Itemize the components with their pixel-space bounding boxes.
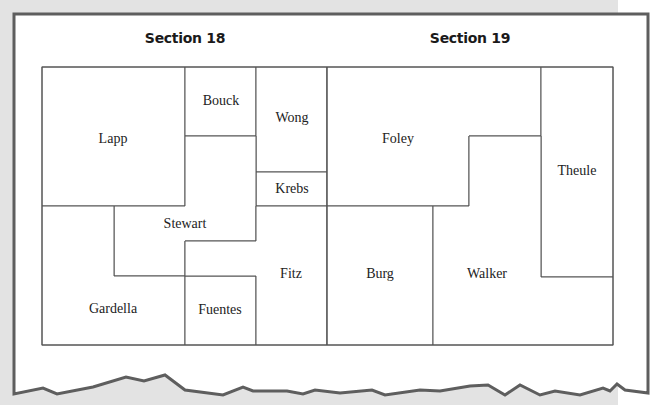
parcel-label-stewart: Stewart xyxy=(164,216,207,232)
parcel-label-foley: Foley xyxy=(382,131,414,147)
parcel-label-theule: Theule xyxy=(558,163,597,179)
parcel-label-wong: Wong xyxy=(275,110,308,126)
parcel-label-bouck: Bouck xyxy=(203,93,240,109)
parcel-label-burg: Burg xyxy=(366,266,394,282)
parcel-label-lapp: Lapp xyxy=(99,131,128,147)
parcel-label-walker: Walker xyxy=(467,266,507,282)
section-18-title: Section 18 xyxy=(145,30,225,46)
parcel-label-fuentes: Fuentes xyxy=(198,302,242,318)
section-19-title: Section 19 xyxy=(430,30,510,46)
parcel-label-krebs: Krebs xyxy=(275,181,308,197)
map-figure: Section 18 Section 19 Lapp Bouck Wong Kr… xyxy=(0,0,655,405)
parcel-map xyxy=(0,0,655,405)
parcel-label-fitz: Fitz xyxy=(280,266,302,282)
parcel-label-gardella: Gardella xyxy=(89,301,137,317)
